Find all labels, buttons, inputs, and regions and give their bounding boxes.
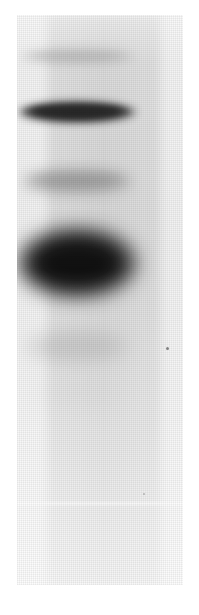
dust-speck-lower xyxy=(143,493,145,495)
band-1-faint-top-curve xyxy=(24,50,130,61)
dust-speck-right xyxy=(166,347,169,350)
band-3-medium-middle-curve xyxy=(25,172,129,188)
lower-scan-seam xyxy=(17,502,183,505)
band-5-medium-bottom xyxy=(23,331,131,363)
band-2-strong-upper-curve xyxy=(23,105,131,119)
gel-figure xyxy=(0,0,199,615)
band-6-very-faint-trail xyxy=(29,376,125,410)
autoradiograph-film xyxy=(17,15,183,585)
band-4-strong-broad-lower xyxy=(17,226,139,300)
